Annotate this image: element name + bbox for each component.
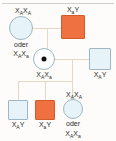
pedigree-diagram: XAXA oder XAXa XaY XAXa XAY XAY	[0, 0, 116, 141]
g1-mother-geno-sub1: A	[20, 10, 23, 16]
g1-father-symbol-square-affected[interactable]	[61, 15, 85, 39]
g3-child-2-x: X	[39, 121, 44, 128]
g3-child-2-y: Y	[46, 121, 51, 128]
g2-spouse-sub: A	[98, 74, 101, 80]
g1-father-geno-sub: a	[72, 9, 75, 15]
g3-sibling-drop-1	[18, 81, 19, 100]
g3-child-3-alt-sub2: a	[78, 133, 81, 139]
g1-mother-geno-x2: X	[23, 7, 28, 14]
g2-descent-line	[72, 59, 73, 81]
g3-child-3-top-x2: X	[74, 91, 79, 98]
g1-mother-oder-label: oder	[4, 41, 38, 49]
g1-mother-geno-x1: X	[15, 7, 20, 14]
g2-daughter-sub1: A	[41, 74, 44, 80]
g1-mother-alt-sub2: a	[26, 53, 29, 59]
g3-child-1-sub: A	[16, 124, 19, 130]
g3-child-1-symbol-square[interactable]	[8, 100, 28, 120]
g2-spouse-symbol-square[interactable]	[89, 48, 111, 70]
g1-father-geno-x: X	[67, 6, 72, 13]
g2-spouse-genotype-label: XAY	[83, 71, 116, 79]
g3-child-3-alt-sub1: A	[70, 133, 73, 139]
g3-child-3-genotype-label-alt: XAXa	[55, 130, 91, 138]
g1-mother-genotype-label: XAXA	[4, 7, 42, 15]
g1-mother-geno-sub2: A	[28, 10, 31, 16]
g3-child-3-symbol-circle[interactable]	[63, 99, 83, 119]
g3-child-2-symbol-square-affected[interactable]	[35, 100, 55, 120]
carrier-dot-icon	[42, 57, 47, 62]
g3-child-3-top-sub2: A	[79, 94, 82, 100]
g2-daughter-sub2: a	[49, 74, 52, 80]
g3-child-1-y: Y	[20, 121, 25, 128]
g3-child-2-sub: a	[44, 124, 47, 130]
g1-father-genotype-label: XaY	[56, 6, 90, 14]
g3-sibling-drop-2	[45, 81, 46, 100]
g3-child-2-genotype-label: XaY	[29, 121, 61, 129]
g3-child-3-oder-label: oder	[58, 120, 88, 128]
g1-father-geno-y: Y	[74, 6, 79, 13]
g1-mother-alt-sub1: A	[18, 53, 21, 59]
g3-child-3-genotype-label-top: XAXA	[56, 91, 92, 99]
g2-daughter-symbol-circle-carrier[interactable]	[33, 48, 55, 70]
g2-daughter-genotype-label: XAXa	[25, 71, 63, 79]
g1-mother-symbol-circle[interactable]	[9, 16, 33, 40]
g2-spouse-y: Y	[102, 71, 107, 78]
top-divider-rule	[2, 3, 114, 4]
g3-child-3-top-x1: X	[66, 91, 71, 98]
